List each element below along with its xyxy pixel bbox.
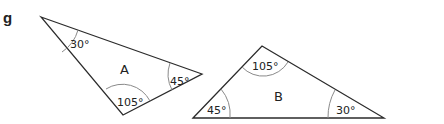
triangle-b: 45° 105° 30° B bbox=[193, 46, 384, 118]
angle-label-a-45: 45° bbox=[170, 75, 190, 88]
angle-label-a-30: 30° bbox=[70, 38, 90, 51]
angle-label-b-45: 45° bbox=[207, 104, 227, 117]
angle-label-a-105: 105° bbox=[117, 96, 144, 109]
angle-arc-b-30 bbox=[328, 90, 335, 118]
angle-label-b-105: 105° bbox=[252, 60, 279, 73]
triangle-a-name: A bbox=[120, 62, 129, 77]
triangle-b-name: B bbox=[274, 89, 283, 104]
triangles-diagram: 30° 45° 105° A 45° 105° 30° B bbox=[0, 0, 444, 124]
angle-label-b-30: 30° bbox=[336, 104, 356, 117]
triangle-a: 30° 45° 105° A bbox=[41, 17, 202, 115]
